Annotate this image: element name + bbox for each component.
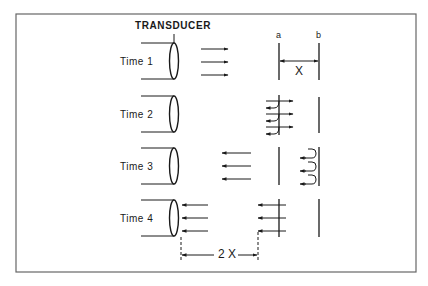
distance-x-label: X	[295, 64, 303, 78]
echo-b-returning-arrows	[258, 205, 286, 231]
time-1-label: Time 1	[120, 56, 153, 67]
transducer-label: TRANSDUCER	[135, 20, 211, 31]
double-distance-label: 2 X	[218, 247, 236, 261]
reflected-hook-arrows-b	[300, 149, 316, 184]
interface-a-label: a	[276, 30, 281, 40]
time-2-label: Time 2	[120, 109, 153, 120]
time-4-label: Time 4	[120, 213, 153, 224]
time-3-row	[141, 147, 319, 186]
reflected-hook-arrows	[266, 101, 279, 134]
diagram-canvas	[0, 0, 428, 286]
time-1-row	[141, 43, 319, 80]
interface-b-label: b	[316, 30, 321, 40]
time-2-row	[141, 95, 319, 135]
forward-pulse-arrows	[201, 49, 228, 75]
echo-a-returning-arrows	[222, 153, 251, 179]
time-3-label: Time 3	[120, 161, 153, 172]
ultrasound-echo-diagram: TRANSDUCER Time 1 Time 2 Time 3 Time 4 a…	[0, 0, 428, 286]
figure-border	[16, 14, 416, 272]
echo-a-arriving-arrows	[182, 205, 208, 231]
